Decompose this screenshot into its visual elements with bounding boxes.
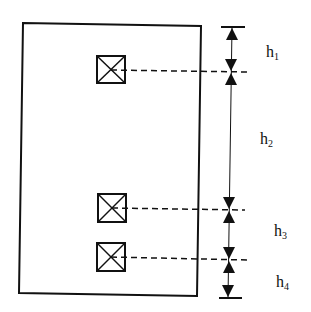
label-h2-sub: 2 [268, 138, 273, 149]
label-h1-base: h [266, 43, 274, 60]
boxed-x-marker-1 [97, 56, 125, 83]
label-h3: h3 [274, 223, 287, 241]
label-h4: h4 [276, 274, 289, 292]
label-h2-base: h [260, 130, 268, 147]
label-h4-sub: 4 [284, 281, 289, 292]
diagram-canvas [0, 0, 311, 312]
label-h1: h1 [266, 44, 279, 62]
label-h3-base: h [274, 222, 282, 239]
label-h1-sub: 1 [274, 51, 279, 62]
label-h4-base: h [276, 273, 284, 290]
dashed-leader-3 [111, 257, 248, 260]
label-h3-sub: 3 [282, 230, 287, 241]
dashed-leader-1 [111, 70, 247, 72]
label-h2: h2 [260, 131, 273, 149]
dashed-leader-2 [112, 208, 245, 210]
